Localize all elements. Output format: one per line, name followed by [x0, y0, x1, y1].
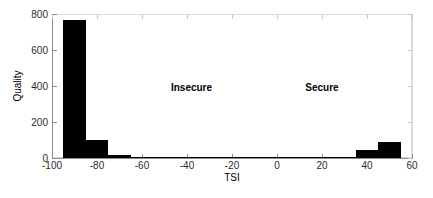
y-tick-label: 800	[31, 9, 48, 20]
x-tick-label: 0	[274, 160, 280, 171]
histogram-bar	[356, 150, 379, 158]
histogram-bar	[63, 20, 86, 158]
x-tick-mark	[412, 154, 413, 158]
histogram-bar	[153, 157, 176, 158]
histogram-bar	[108, 155, 131, 158]
histogram-bar	[176, 157, 199, 158]
x-tick-label: -60	[135, 160, 149, 171]
y-tick-label: 200	[31, 117, 48, 128]
histogram-bar	[243, 157, 266, 158]
chart-figure: -100-80-60-40-2002040600200400600800 Ins…	[0, 0, 433, 198]
histogram-bar	[288, 157, 311, 158]
y-tick-label: 400	[31, 81, 48, 92]
histogram-bar	[131, 157, 154, 158]
y-tick-mark	[53, 158, 57, 159]
y-tick-label: 600	[31, 45, 48, 56]
histogram-bar	[311, 157, 334, 158]
x-tick-mark-top	[412, 15, 413, 19]
axis-spine-bottom	[52, 158, 413, 159]
y-axis-label: Quality	[12, 70, 23, 101]
histogram-bar	[221, 157, 244, 158]
x-tick-label: 40	[361, 160, 372, 171]
region-label-insecure: Insecure	[171, 82, 212, 93]
axis-spine-right	[412, 14, 413, 159]
histogram-bar	[266, 157, 289, 158]
x-tick-label: -20	[225, 160, 239, 171]
x-tick-label: -80	[90, 160, 104, 171]
y-tick-mark-right	[408, 158, 412, 159]
y-tick-label: 0	[42, 153, 48, 164]
x-tick-label: 20	[316, 160, 327, 171]
x-axis-label: TSI	[224, 172, 240, 183]
histogram-bar	[333, 157, 356, 158]
histogram-bar	[378, 142, 401, 158]
x-tick-label: 60	[406, 160, 417, 171]
histogram-bar	[198, 157, 221, 158]
histogram-bars	[52, 14, 412, 158]
x-tick-label: -40	[180, 160, 194, 171]
histogram-bar	[86, 140, 109, 158]
region-label-secure: Secure	[305, 82, 338, 93]
